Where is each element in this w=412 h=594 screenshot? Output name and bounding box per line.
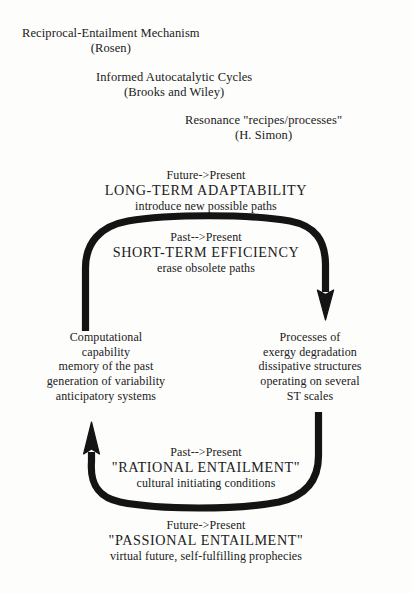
column-left-line: Computational [8, 330, 204, 345]
column-left-line: capability [8, 345, 204, 360]
header-rosen-author: (Rosen) [22, 41, 200, 56]
header-brooks-wiley-author: (Brooks and Wiley) [96, 85, 252, 100]
header-rosen: Reciprocal-Entailment Mechanism (Rosen) [22, 26, 200, 56]
header-brooks-wiley-title: Informed Autocatalytic Cycles [96, 70, 252, 85]
figure-canvas: Reciprocal-Entailment Mechanism (Rosen) … [0, 0, 412, 594]
label-long-term-adaptability: Future->Present LONG-TERM ADAPTABILITY i… [0, 168, 412, 213]
label-passional-description: virtual future, self-fulfilling propheci… [0, 549, 412, 563]
label-rational-entailment: Past-->Present "RATIONAL ENTAILMENT" cul… [0, 445, 412, 490]
column-left-line: anticipatory systems [8, 389, 204, 404]
label-passional-entailment: Future->Present "PASSIONAL ENTAILMENT" v… [0, 518, 412, 563]
column-right-line: dissipative structures [212, 359, 408, 374]
column-right-line: operating on several [212, 374, 408, 389]
header-simon: Resonance "recipes/processes" (H. Simon) [185, 113, 342, 143]
label-short-term-direction: Past-->Present [0, 230, 412, 244]
header-simon-title: Resonance "recipes/processes" [185, 113, 342, 128]
label-rational-title: "RATIONAL ENTAILMENT" [0, 459, 412, 476]
column-exergy-degradation: Processes of exergy degradation dissipat… [212, 330, 408, 403]
label-rational-description: cultural initiating conditions [0, 476, 412, 490]
column-right-line: exergy degradation [212, 345, 408, 360]
header-rosen-title: Reciprocal-Entailment Mechanism [22, 26, 200, 41]
label-long-term-description: introduce new possible paths [0, 199, 412, 213]
label-short-term-title: SHORT-TERM EFFICIENCY [0, 244, 412, 261]
label-short-term-description: erase obsolete paths [0, 261, 412, 275]
label-short-term-efficiency: Past-->Present SHORT-TERM EFFICIENCY era… [0, 230, 412, 275]
label-long-term-direction: Future->Present [0, 168, 412, 182]
label-rational-direction: Past-->Present [0, 445, 412, 459]
label-long-term-title: LONG-TERM ADAPTABILITY [0, 182, 412, 199]
column-computational-capability: Computational capability memory of the p… [8, 330, 204, 403]
column-right-line: Processes of [212, 330, 408, 345]
column-left-line: generation of variability [8, 374, 204, 389]
column-right-line: ST scales [212, 389, 408, 404]
label-passional-title: "PASSIONAL ENTAILMENT" [0, 532, 412, 549]
column-left-line: memory of the past [8, 359, 204, 374]
label-passional-direction: Future->Present [0, 518, 412, 532]
header-brooks-wiley: Informed Autocatalytic Cycles (Brooks an… [96, 70, 252, 100]
header-simon-author: (H. Simon) [185, 128, 342, 143]
